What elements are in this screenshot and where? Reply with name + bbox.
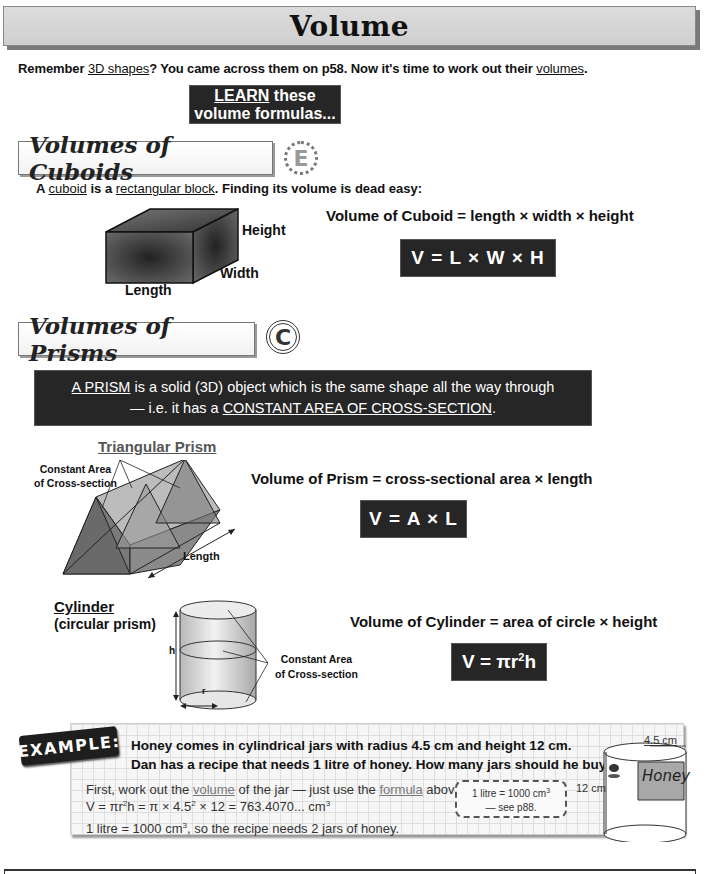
formula-end: h [524, 651, 536, 672]
cuboid-diagram [100, 205, 240, 285]
note-text: 1 litre = 1000 cm [472, 789, 546, 800]
link-3d-shapes[interactable]: 3D shapes [88, 61, 149, 76]
answer-text: V = πr [86, 799, 123, 814]
note-line2: — see p88. [485, 801, 536, 814]
desc-end: . Finding its volume is dead easy: [215, 181, 422, 196]
triangular-prism-title: Triangular Prism [98, 438, 216, 455]
tri-cross-section-label: Constant Area of Cross-section [34, 462, 117, 490]
answer-text: 1 litre = 1000 cm [86, 821, 182, 836]
intro-text: Remember 3D shapes? You came across them… [18, 61, 588, 76]
cuboid-formula-box: V = L × W × H [400, 239, 556, 277]
prism-formula-box: V = A × L [360, 500, 467, 538]
term-constant-area: CONSTANT AREA OF CROSS-SECTION [223, 400, 492, 416]
grade-letter: C [275, 325, 291, 350]
label-line-2: of Cross-section [34, 476, 117, 490]
label-line-1: Constant Area [275, 652, 358, 667]
cylinder-formula-words: Volume of Cylinder = area of circle × he… [350, 613, 657, 630]
learn-formulas-banner: LEARN these volume formulas... [189, 85, 341, 124]
section-header-cuboids: Volumes of Cuboids [18, 141, 273, 175]
jar-label: Honey [642, 767, 690, 785]
term-cuboid[interactable]: cuboid [49, 181, 87, 196]
exponent: 3 [546, 787, 550, 794]
definition-line2-end: . [492, 400, 496, 416]
section-header-prisms: Volumes of Prisms [18, 322, 255, 356]
label-length: Length [125, 282, 172, 298]
example-answer-line3: 1 litre = 1000 cm3, so the recipe needs … [86, 821, 399, 836]
cylinder-formula: V = πr2h [462, 651, 536, 673]
example-answer-line1: First, work out the volume of the jar — … [86, 782, 465, 797]
cylinder-h-label: h [169, 645, 175, 656]
cuboid-description: A cuboid is a rectangular block. Finding… [36, 181, 422, 196]
term-a-prism: A PRISM [72, 379, 131, 395]
section-title-cuboids: Volumes of Cuboids [29, 131, 272, 185]
cuboid-formula-words: Volume of Cuboid = length × width × heig… [326, 207, 634, 224]
intro-text-start: Remember [18, 61, 88, 76]
answer-text: × 12 = 763.4070... cm [196, 799, 326, 814]
answer-text: h = π × 4.5 [127, 799, 191, 814]
definition-line1: is a solid (3D) object which is the same… [130, 379, 554, 395]
prism-formula-words: Volume of Prism = cross-sectional area ×… [251, 470, 593, 487]
cylinder-subtitle: (circular prism) [54, 616, 156, 632]
jar-height-label: 12 cm [576, 782, 606, 794]
definition-line2-start: — i.e. it has a [130, 400, 223, 416]
litre-conversion-note: 1 litre = 1000 cm3 — see p88. [455, 780, 567, 818]
link-volume[interactable]: volume [193, 782, 235, 797]
page-title: Volume [290, 10, 409, 43]
label-width: Width [220, 265, 259, 281]
label-line-2: of Cross-section [275, 667, 358, 682]
example-question-line2: Dan has a recipe that needs 1 litre of h… [131, 757, 615, 772]
page-title-banner: Volume [3, 6, 696, 46]
example-answer-line2: V = πr2h = π × 4.52 × 12 = 763.4070... c… [86, 799, 330, 814]
prism-formula: V = A × L [369, 508, 458, 530]
grade-badge-c: C [266, 320, 300, 354]
honey-jar-diagram [600, 742, 690, 842]
label-height: Height [242, 222, 286, 238]
link-volumes[interactable]: volumes [536, 61, 584, 76]
exponent: 3 [326, 799, 330, 808]
cylinder-diagram [168, 598, 268, 710]
prism-definition-box: A PRISM is a solid (3D) object which is … [34, 370, 592, 426]
label-line-1: Constant Area [34, 462, 117, 476]
formula-main: V = πr [462, 651, 518, 672]
cuboid-formula: V = L × W × H [411, 247, 545, 269]
page-footer-bar [4, 869, 696, 874]
desc-middle: is a [87, 181, 116, 196]
grade-badge-e: E [284, 141, 318, 175]
section-title-prisms: Volumes of Prisms [29, 312, 254, 366]
desc-start: A [36, 181, 49, 196]
intro-text-end: . [584, 61, 588, 76]
link-formula[interactable]: formula [379, 782, 422, 797]
jar-radius-label: 4.5 cm [644, 734, 677, 746]
term-rectangular-block[interactable]: rectangular block [116, 181, 215, 196]
intro-text-middle: ? You came across them on p58. Now it's … [149, 61, 536, 76]
answer-text: of the jar — just use the [235, 782, 380, 797]
answer-text: First, work out the [86, 782, 193, 797]
answer-text: , so the recipe needs 2 jars of honey. [187, 821, 399, 836]
cylinder-title: Cylinder [54, 598, 114, 615]
learn-emphasis: LEARN [214, 87, 269, 104]
grade-letter: E [293, 146, 308, 171]
cylinder-r-label: r [202, 686, 206, 696]
note-line1: 1 litre = 1000 cm3 [472, 784, 550, 800]
tri-length-label: Length [183, 550, 220, 562]
example-question-line1: Honey comes in cylindrical jars with rad… [131, 738, 571, 753]
cyl-cross-section-label: Constant Area of Cross-section [275, 652, 358, 682]
cylinder-formula-box: V = πr2h [451, 643, 547, 681]
